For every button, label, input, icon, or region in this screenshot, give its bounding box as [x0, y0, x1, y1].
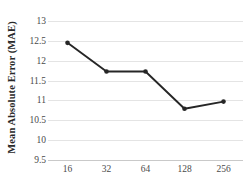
x-axis-line [48, 160, 243, 161]
y-axis-tick-label: 11 [2, 95, 46, 105]
data-point-marker [221, 99, 226, 104]
y-axis-tick-labels: 1312.51211.51110.5109.5 [0, 21, 46, 160]
plot-area [48, 21, 243, 160]
y-axis-tick-label: 9.5 [2, 155, 46, 165]
x-axis-tick-label: 128 [177, 163, 191, 175]
y-axis-tick-label: 13 [2, 16, 46, 26]
x-axis-tick-labels: 163264128256 [48, 163, 243, 179]
series-polyline [68, 43, 224, 109]
x-axis-tick-label: 16 [63, 163, 73, 175]
y-axis-tick-label: 10 [2, 135, 46, 145]
data-point-marker [65, 41, 70, 46]
y-axis-tick-label: 10.5 [2, 115, 46, 125]
x-axis-tick-label: 64 [141, 163, 151, 175]
y-axis-tick-label: 12.5 [2, 36, 46, 46]
chart-container: Mean Absolute Error (MAE) 1312.51211.511… [0, 0, 246, 189]
data-point-marker [104, 69, 109, 74]
series-line-mean-absolute-error [48, 21, 243, 160]
data-point-marker [182, 106, 187, 111]
y-axis-tick-label: 12 [2, 56, 46, 66]
y-axis-tick-label: 11.5 [2, 76, 46, 86]
data-point-marker [143, 69, 148, 74]
x-axis-tick-label: 256 [216, 163, 230, 175]
x-axis-tick-label: 32 [102, 163, 112, 175]
